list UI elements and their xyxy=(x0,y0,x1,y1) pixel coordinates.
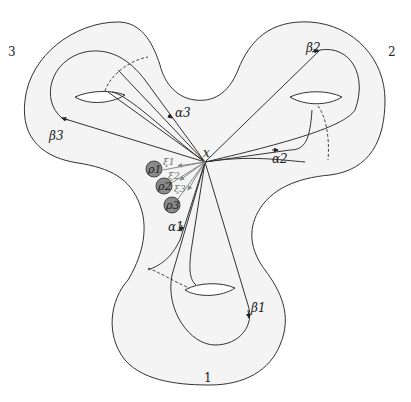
surface-diagram: 3 2 1 x α3 α2 α1 β3 β2 β1 ξ1 ξ2 ξ3 ρ1 ρ2… xyxy=(0,0,411,402)
basepoint-label: x xyxy=(203,146,210,160)
beta2-label: β2 xyxy=(305,41,321,55)
rho2-label: ρ2 xyxy=(157,180,171,193)
alpha2-label: α2 xyxy=(272,152,288,166)
beta1-label: β1 xyxy=(250,301,266,315)
end-label-3: 3 xyxy=(8,45,16,59)
rho1-label: ρ1 xyxy=(147,163,161,176)
xi3-label: ξ3 xyxy=(174,183,186,194)
end-label-2: 2 xyxy=(388,45,396,59)
alpha3-label: α3 xyxy=(175,106,191,120)
beta3-label: β3 xyxy=(48,129,64,143)
rho3-label: ρ3 xyxy=(165,199,179,212)
surface-outline xyxy=(24,22,385,385)
end-label-1: 1 xyxy=(204,371,212,385)
alpha1-label: α1 xyxy=(168,220,184,234)
xi1-label: ξ1 xyxy=(163,156,175,167)
